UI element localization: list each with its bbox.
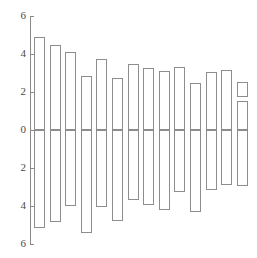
positive-bar [221, 70, 232, 130]
positive-bar [65, 52, 76, 130]
negative-bar [159, 130, 170, 210]
positive-bar [96, 59, 107, 130]
y-tick-label: 6 [2, 10, 26, 21]
negative-bar [34, 130, 45, 228]
negative-bar [190, 130, 201, 212]
y-tick-label-wrap: 6 [0, 10, 26, 21]
positive-bar [190, 83, 201, 131]
negative-bar [65, 130, 76, 206]
negative-bar [81, 130, 92, 233]
y-axis-cap [30, 244, 34, 245]
y-tick-label: 6 [2, 238, 26, 249]
negative-bar [50, 130, 61, 222]
y-tick-label: 2 [2, 86, 26, 97]
y-tick-label: 2 [2, 162, 26, 173]
y-tick-label: 4 [2, 48, 26, 59]
negative-bar [206, 130, 217, 190]
y-tick-label-wrap: 0 [0, 124, 26, 135]
y-tick-label-wrap: 6 [0, 238, 26, 249]
y-tick-label-wrap: 2 [0, 162, 26, 173]
y-tick-label-wrap: 4 [0, 48, 26, 59]
negative-bar [174, 130, 185, 192]
y-tick-label: 0 [2, 124, 26, 135]
positive-bar [128, 64, 139, 130]
positive-bar [174, 67, 185, 130]
positive-bar-upper-segment [237, 82, 248, 97]
positive-bar [206, 72, 217, 130]
negative-bar [143, 130, 154, 205]
negative-bar [237, 130, 248, 186]
positive-bar [50, 45, 61, 130]
negative-bar [96, 130, 107, 207]
plot-area: 6420246 [0, 0, 257, 258]
positive-bar [143, 68, 154, 130]
positive-bar [112, 78, 123, 130]
positive-bar [159, 71, 170, 130]
y-axis-cap [30, 16, 34, 17]
negative-bar [221, 130, 232, 185]
positive-bar [81, 76, 92, 130]
y-tick-label-wrap: 2 [0, 86, 26, 97]
negative-bar [112, 130, 123, 221]
chart-container: 6420246 [0, 0, 257, 258]
positive-bar [34, 37, 45, 130]
y-tick-label-wrap: 4 [0, 200, 26, 211]
negative-bar [128, 130, 139, 200]
y-tick-label: 4 [2, 200, 26, 211]
positive-bar-lower-segment [237, 101, 248, 130]
